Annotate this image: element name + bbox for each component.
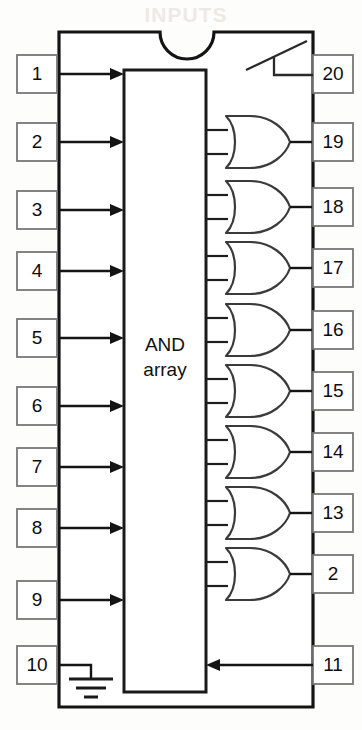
pin-number-5: 5 bbox=[32, 327, 43, 348]
pal-chip-figure: INPUTS AND array 1 2 bbox=[0, 0, 362, 730]
pin-number-19: 19 bbox=[322, 131, 343, 152]
pin-number-2: 2 bbox=[32, 131, 43, 152]
pin-number-16: 16 bbox=[322, 319, 343, 340]
and-array-box bbox=[124, 70, 206, 692]
pin-number-15: 15 bbox=[322, 380, 343, 401]
pin-number-8: 8 bbox=[32, 517, 43, 538]
pin-number-3: 3 bbox=[32, 199, 43, 220]
and-array-label-line1: AND bbox=[145, 334, 185, 355]
pin-number-17: 17 bbox=[322, 257, 343, 278]
page-bleed-text: INPUTS bbox=[144, 3, 227, 26]
pin-number-11: 11 bbox=[323, 654, 343, 675]
pin-number-6: 6 bbox=[32, 395, 43, 416]
and-array-label-line2: array bbox=[143, 359, 187, 380]
pin-number-1: 1 bbox=[32, 63, 43, 84]
pin-number-14: 14 bbox=[322, 441, 344, 462]
pin-number-10: 10 bbox=[26, 654, 47, 675]
pin-number-18: 18 bbox=[322, 196, 343, 217]
pin-number-13: 13 bbox=[322, 502, 343, 523]
pin-number-4: 4 bbox=[32, 260, 43, 281]
pin-number-20: 20 bbox=[322, 63, 343, 84]
pin-number-2-output: 2 bbox=[328, 563, 339, 584]
pin-number-9: 9 bbox=[32, 589, 43, 610]
pin-number-7: 7 bbox=[32, 456, 43, 477]
logic-diagram: INPUTS AND array 1 2 bbox=[0, 0, 362, 730]
